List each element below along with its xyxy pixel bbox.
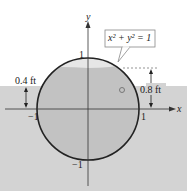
diagram: x² + y² = 1 y x 1 −1 1 −1 0.4 ft 0.8 ft xyxy=(0,0,187,191)
left-depth-label: 0.4 ft xyxy=(15,76,36,86)
tick-x-pos: 1 xyxy=(141,112,146,122)
y-axis-label: y xyxy=(86,12,90,22)
tick-x-neg: −1 xyxy=(28,112,39,122)
tick-y-neg: −1 xyxy=(72,160,83,170)
tick-y-pos: 1 xyxy=(79,50,84,60)
right-depth-label: 0.8 ft xyxy=(140,85,161,95)
x-axis-label: x xyxy=(177,104,181,114)
diagram-graphic xyxy=(0,0,187,191)
y-axis-arrow-icon xyxy=(86,21,91,28)
equation-label: x² + y² = 1 xyxy=(108,33,151,43)
